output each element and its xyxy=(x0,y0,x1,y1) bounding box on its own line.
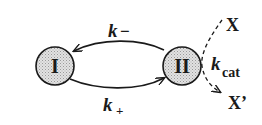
transition-arrow-k-plus xyxy=(70,78,164,88)
state-label-I: I xyxy=(51,55,59,77)
rate-label-k-plus: k + xyxy=(103,94,123,118)
svg-text:k: k xyxy=(211,53,221,74)
state-node-I: I xyxy=(36,47,74,85)
kinetic-scheme-diagram: I II k − k + X k cat X’ xyxy=(0,0,262,125)
svg-text:cat: cat xyxy=(222,65,240,80)
svg-text:k: k xyxy=(108,20,118,41)
rate-label-k-minus: k − xyxy=(108,20,130,41)
svg-text:−: − xyxy=(120,22,130,41)
svg-text:k: k xyxy=(103,94,113,115)
rate-label-kcat: k cat xyxy=(211,53,240,80)
state-label-II: II xyxy=(174,55,190,77)
svg-text:+: + xyxy=(116,103,123,118)
state-node-II: II xyxy=(163,47,201,85)
substrate-label-X: X xyxy=(226,15,239,35)
transition-arrow-k-minus xyxy=(74,41,164,51)
product-label-X-prime: X’ xyxy=(228,93,247,113)
